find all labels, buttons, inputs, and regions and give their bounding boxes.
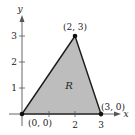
y-axis-label: y (16, 4, 23, 14)
x-axis-arrow-icon (114, 112, 121, 117)
x-tick-label-3: 3 (98, 120, 104, 130)
region-label: R (64, 80, 73, 91)
region-r (22, 36, 101, 114)
x-tick-label-2: 2 (72, 120, 78, 130)
y-axis-arrow-icon (20, 15, 25, 22)
region-plot: y x 1 2 3 2 3 (2, 3) (3, 0) (0, 0) R (0, 0, 135, 135)
point-right (99, 112, 104, 117)
y-tick-label-2: 2 (11, 57, 17, 67)
point-apex (73, 34, 78, 39)
y-tick-label-3: 3 (11, 31, 17, 41)
point-label-origin: (0, 0) (28, 118, 52, 128)
point-origin (20, 112, 25, 117)
point-label-apex: (2, 3) (63, 22, 87, 32)
y-tick-label-1: 1 (11, 83, 17, 93)
point-label-right: (3, 0) (101, 102, 125, 112)
